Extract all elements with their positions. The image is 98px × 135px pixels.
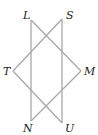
segment-mn — [31, 71, 81, 121]
point-label-u: U — [65, 122, 75, 135]
point-label-t: T — [3, 65, 12, 78]
point-label-m: M — [83, 65, 96, 78]
point-label-l: L — [22, 9, 30, 22]
point-label-n: N — [22, 122, 33, 135]
geometry-diagram: LSTMNU — [0, 0, 98, 135]
labels-group: LSTMNU — [3, 9, 96, 135]
point-label-s: S — [66, 9, 74, 22]
segments-group — [13, 19, 81, 123]
segment-lm — [31, 20, 81, 71]
